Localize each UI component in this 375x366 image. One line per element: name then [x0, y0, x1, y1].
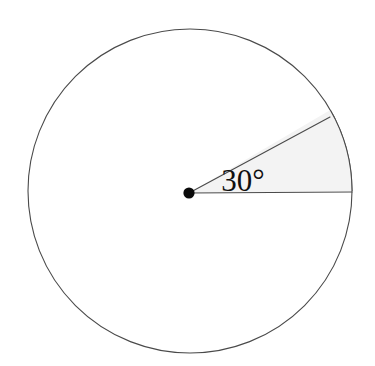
figure-root: 30°	[0, 0, 375, 366]
circle-sector-diagram: 30°	[0, 0, 375, 366]
angle-label: 30°	[221, 163, 264, 198]
center-point-dot	[183, 187, 194, 198]
